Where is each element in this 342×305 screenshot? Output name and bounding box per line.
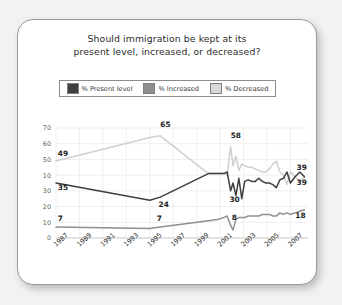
- y-axis-tick-label: 10: [43, 219, 51, 227]
- x-axis-tick-label: 1991: [99, 231, 117, 248]
- y-axis-tick-label: 30: [43, 187, 51, 195]
- data-label: 39: [297, 163, 307, 172]
- data-label: 8: [232, 213, 237, 222]
- data-label: 7: [58, 214, 63, 223]
- legend-swatch-icon: [67, 83, 79, 94]
- data-label: 39: [297, 178, 307, 187]
- legend-item-1: % Increased: [143, 83, 198, 94]
- y-axis-tick-label: 70: [43, 124, 51, 132]
- x-axis-tick-label: 1987: [52, 231, 70, 248]
- x-axis-tick-label: 2001: [216, 231, 234, 248]
- x-axis-tick-label: 1995: [146, 231, 164, 248]
- y-axis-tick-label: 60: [43, 140, 51, 148]
- x-axis-tick-label: 1989: [75, 231, 93, 248]
- x-axis-tick-label: 1993: [122, 231, 140, 248]
- x-axis-tick-label: 2007: [286, 231, 304, 248]
- legend-item-label: % Present level: [82, 85, 133, 93]
- chart-legend: % Present level% Increased% Decreased: [59, 80, 276, 97]
- chart-card: Should immigration be kept at its presen…: [17, 19, 317, 285]
- data-label: 24: [159, 200, 169, 209]
- data-label: 30: [229, 195, 239, 204]
- chart-title-line-1: Should immigration be kept at its: [18, 33, 316, 46]
- data-label: 35: [58, 183, 68, 192]
- legend-item-label: % Increased: [158, 85, 198, 93]
- data-label: 18: [295, 211, 305, 220]
- x-axis-tick-label: 2005: [263, 231, 281, 248]
- chart-title-line-2: present level, increased, or decreased?: [18, 46, 316, 59]
- y-axis-tick-label: 20: [43, 203, 51, 211]
- chart-title: Should immigration be kept at its presen…: [18, 33, 316, 58]
- x-axis-tick-label: 1997: [169, 231, 187, 248]
- y-axis-tick-label: 50: [43, 156, 51, 164]
- y-axis-tick-label: 0: [47, 234, 51, 242]
- x-axis-tick-label: 2003: [240, 231, 258, 248]
- legend-swatch-icon: [210, 83, 222, 94]
- x-axis-tick-label: 1999: [193, 231, 211, 248]
- data-label: 49: [58, 149, 68, 158]
- legend-item-2: % Decreased: [210, 83, 268, 94]
- legend-swatch-icon: [143, 83, 155, 94]
- line-chart-svg: 7060501030201001987198919911993199519971…: [18, 120, 317, 285]
- data-label: 7: [157, 214, 162, 223]
- y-axis-tick-label: 10: [43, 172, 51, 180]
- data-label: 65: [160, 120, 170, 129]
- legend-item-0: % Present level: [67, 83, 133, 94]
- chart-plot-area: 7060501030201001987198919911993199519971…: [18, 120, 317, 285]
- screenshot-root: Should immigration be kept at its presen…: [0, 0, 342, 305]
- data-label: 58: [231, 131, 241, 140]
- legend-item-label: % Decreased: [225, 85, 268, 93]
